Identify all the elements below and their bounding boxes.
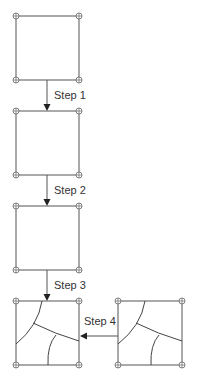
corner-node-icon: [76, 203, 82, 209]
corner-node-icon: [115, 362, 121, 368]
square-box-5: [115, 298, 185, 368]
box-1-outline: [16, 16, 79, 80]
step-4-arrow: [80, 333, 118, 340]
step-3-arrow: [44, 270, 51, 301]
corner-node-icon: [13, 13, 19, 19]
curve-b: [33, 323, 79, 341]
curve-c: [151, 335, 159, 365]
corner-node-icon: [179, 362, 185, 368]
corner-node-icon: [76, 298, 82, 304]
arrow-down-icon: [44, 294, 51, 301]
corner-node-icon: [13, 172, 19, 178]
box-2-outline: [16, 111, 79, 175]
corner-node-icon: [76, 13, 82, 19]
mesh-refinement-diagram: Step 1 Step 2 Step 3: [0, 0, 197, 381]
box-5-outline: [118, 301, 182, 365]
arrow-down-icon: [44, 199, 51, 206]
curve-a: [118, 301, 145, 344]
step-3-label: Step 3: [54, 279, 86, 291]
square-box-4: [13, 298, 82, 368]
corner-node-icon: [76, 108, 82, 114]
square-box-1: [13, 13, 82, 83]
step-1-arrow: [44, 80, 51, 111]
step-4-label: Step 4: [84, 315, 116, 327]
box-3-outline: [16, 206, 79, 270]
corner-node-icon: [13, 267, 19, 273]
corner-node-icon: [115, 298, 121, 304]
square-box-2: [13, 108, 82, 178]
corner-node-icon: [76, 267, 82, 273]
corner-node-icon: [76, 77, 82, 83]
square-box-3: [13, 203, 82, 273]
step-2-arrow: [44, 175, 51, 206]
arrow-left-icon: [80, 333, 87, 340]
corner-node-icon: [76, 362, 82, 368]
curve-a: [16, 301, 42, 344]
box-4-outline: [16, 301, 79, 365]
step-2-label: Step 2: [54, 184, 86, 196]
curve-b: [136, 323, 182, 341]
corner-node-icon: [179, 298, 185, 304]
corner-node-icon: [13, 362, 19, 368]
arrow-down-icon: [44, 104, 51, 111]
curve-c: [48, 335, 56, 365]
corner-node-icon: [13, 298, 19, 304]
step-1-label: Step 1: [54, 89, 86, 101]
corner-node-icon: [13, 77, 19, 83]
corner-node-icon: [13, 108, 19, 114]
corner-node-icon: [13, 203, 19, 209]
corner-node-icon: [76, 172, 82, 178]
